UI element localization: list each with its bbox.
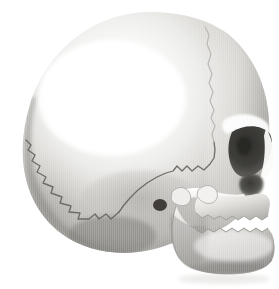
skull-lateral-illustration: Human Skull — Lateral View bbox=[0, 0, 279, 289]
orbit-deep-point bbox=[237, 137, 251, 155]
mandibular-condyle bbox=[171, 188, 191, 206]
cast-shadow bbox=[178, 274, 270, 284]
external-auditory-meatus bbox=[153, 199, 167, 211]
illustration-canvas: Human Skull — Lateral View bbox=[0, 0, 279, 289]
